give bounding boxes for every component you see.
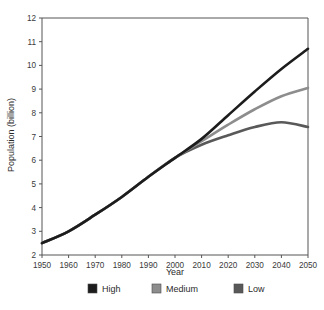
y-tick-label: 8: [31, 109, 36, 118]
legend-label-high: High: [102, 284, 121, 294]
x-tick-label: 1950: [33, 261, 52, 270]
y-tick-label: 11: [28, 38, 37, 47]
legend-swatch-low: [234, 284, 243, 293]
y-tick-label: 3: [31, 227, 36, 236]
series-lines: [42, 49, 308, 243]
y-axis: 23456789101112: [27, 14, 308, 260]
legend-swatch-medium: [152, 284, 161, 293]
y-tick-label: 12: [27, 14, 37, 23]
x-tick-label: 1980: [113, 261, 132, 270]
series-line-low: [42, 122, 308, 243]
population-projection-chart: 23456789101112 1950196019701980199020002…: [0, 0, 324, 310]
y-axis-title: Population (billion): [6, 98, 16, 172]
x-axis-title: Year: [166, 267, 184, 277]
y-tick-label: 4: [31, 204, 36, 213]
y-tick-label: 9: [31, 85, 36, 94]
y-tick-label: 2: [31, 251, 36, 260]
legend-swatch-high: [88, 284, 97, 293]
x-tick-label: 2020: [219, 261, 238, 270]
x-tick-label: 1970: [86, 261, 105, 270]
x-tick-label: 2010: [192, 261, 211, 270]
legend-label-medium: Medium: [166, 284, 198, 294]
legend-label-low: Low: [248, 284, 265, 294]
series-line-high: [42, 49, 308, 243]
x-tick-label: 1960: [59, 261, 78, 270]
chart-canvas: 23456789101112 1950196019701980199020002…: [0, 0, 324, 310]
y-tick-label: 5: [31, 180, 36, 189]
x-tick-label: 1990: [139, 261, 158, 270]
y-tick-label: 10: [27, 61, 37, 70]
x-tick-label: 2040: [272, 261, 291, 270]
y-tick-label: 6: [31, 156, 36, 165]
x-tick-label: 2030: [246, 261, 265, 270]
y-tick-label: 7: [31, 133, 36, 142]
x-tick-label: 2050: [299, 261, 318, 270]
series-line-medium: [42, 88, 308, 243]
chart-legend: HighMediumLow: [88, 284, 265, 294]
